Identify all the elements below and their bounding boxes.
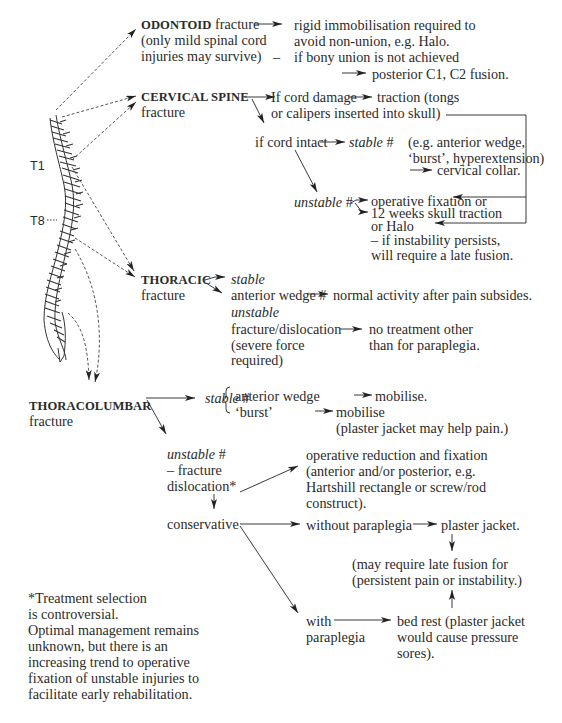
thoracolumbar-mob1: mobilise. [375, 388, 427, 404]
thoracolumbar-mob2-note: (plaster jacket may help pain.) [336, 420, 508, 436]
cervical-unstable-hash: # [346, 194, 353, 210]
thoracolumbar-bed1: bed rest (plaster jacket [397, 613, 525, 629]
thoracic-fd: fracture/dislocation [231, 321, 341, 337]
thoracolumbar-jacket: plaster jacket. [441, 517, 520, 533]
footnote-line2: is controversial. [28, 606, 119, 622]
thoracolumbar-unstable: unstable [167, 446, 215, 462]
thoracolumbar-op1: operative reduction and fixation [306, 447, 488, 463]
cervical-unstable: unstable [294, 194, 342, 210]
cervical-collar: cervical collar. [437, 162, 521, 178]
odontoid-treat1: rigid immobilisation required to [294, 17, 476, 33]
thoracolumbar-op2: (anterior and/or posterior, e.g. [306, 463, 476, 479]
odontoid-treat2: avoid non-union, e.g. Halo. [294, 33, 450, 49]
cervical-sub: fracture [141, 104, 185, 120]
thoracic-title: THORACIC [141, 272, 211, 288]
thoracolumbar-stable: stable [205, 390, 239, 406]
cervical-traction1: traction (tongs [377, 89, 459, 105]
cervical-cord-intact: if cord intact [255, 134, 327, 150]
cervical-traction2: or calipers inserted into skull) [271, 105, 440, 121]
footnote-line1: *Treatment selection [28, 590, 147, 606]
thoracolumbar-late2: (persistent pain or instability.) [352, 572, 522, 588]
thoracolumbar-with2: paraplegia [306, 629, 365, 645]
label-t8: T8 [30, 213, 45, 229]
thoracolumbar-wedge: anterior wedge [235, 388, 320, 404]
thoracic-stable: stable [231, 271, 265, 287]
cervical-stable-eg1: (e.g. anterior wedge, [408, 134, 525, 150]
cervical-title: CERVICAL SPINE [141, 89, 249, 105]
spine-illustration-icon [44, 115, 83, 362]
thoracolumbar-fd1: – fracture [167, 462, 222, 478]
footnote-line3: Optimal management remains [28, 622, 199, 638]
thoracic-no-treat1: no treatment other [369, 321, 473, 337]
thoracolumbar-bed2: would cause pressure [397, 629, 518, 645]
label-t1: T1 [30, 158, 45, 174]
footnote-line4: unknown, but there is an [28, 638, 168, 654]
thoracolumbar-without: without paraplegia [306, 517, 412, 533]
cervical-stable-hash: # [386, 134, 393, 150]
footnote-line7: facilitate early rehabilitation. [28, 686, 192, 702]
thoracolumbar-unstable-hash: # [219, 446, 226, 462]
thoracic-force1: (severe force [231, 337, 305, 353]
cervical-op5: will require a late fusion. [371, 247, 513, 263]
footnote-line6: fixation of unstable injuries to [28, 670, 199, 686]
thoracolumbar-with1: with [306, 613, 331, 629]
cervical-cord-damage: If cord damage [271, 89, 357, 105]
odontoid-sub2: injuries may survive) [141, 48, 262, 64]
thoracolumbar-bed3: sores). [397, 645, 434, 661]
footnote-line5: increasing trend to operative [28, 654, 190, 670]
thoracolumbar-op4: construct). [306, 495, 366, 511]
thoracolumbar-title: THORACOLUMBAR [29, 398, 151, 414]
odontoid-treat3: if bony union is not achieved [294, 49, 459, 65]
thoracolumbar-sub: fracture [29, 413, 73, 429]
thoracolumbar-conservative: conservative [167, 516, 239, 532]
thoracic-unstable: unstable [231, 304, 279, 320]
odontoid-sub1: (only mild spinal cord [141, 32, 267, 48]
cervical-op4: – if instability persists, [371, 232, 500, 248]
thoracic-wedge: anterior wedge # [231, 287, 326, 303]
thoracolumbar-late1: (may require late fusion for [352, 556, 508, 572]
thoracolumbar-fd2: dislocation* [167, 478, 236, 494]
thoracic-no-treat2: than for paraplegia. [369, 337, 480, 353]
cervical-stable: stable [349, 134, 383, 150]
thoracic-force2: required) [231, 352, 283, 368]
odontoid-dash: – [273, 49, 280, 65]
thoracolumbar-op3: Hartshill rectangle or screw/rod [306, 479, 486, 495]
odontoid-title-suffix: fracture [215, 16, 259, 32]
thoracolumbar-burst: ‘burst’ [235, 404, 273, 420]
thoracic-normal: normal activity after pain subsides. [333, 287, 532, 303]
thoracolumbar-mob2: mobilise [336, 404, 385, 420]
thoracic-sub: fracture [141, 287, 185, 303]
odontoid-treat4: posterior C1, C2 fusion. [372, 66, 509, 82]
odontoid-title: ODONTOID [141, 18, 212, 32]
